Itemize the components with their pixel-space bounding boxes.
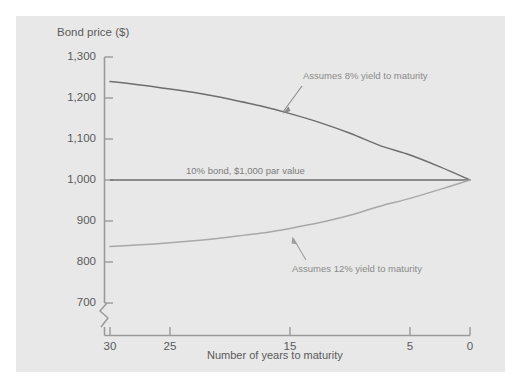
annotation-arrowhead-12pct bbox=[292, 237, 298, 245]
y-tick-label: 900 bbox=[50, 214, 96, 226]
y-axis-title: Bond price ($) bbox=[57, 26, 129, 38]
y-axis-break-icon bbox=[100, 303, 108, 327]
y-tick-label: 1,300 bbox=[50, 50, 96, 62]
x-tick-marks bbox=[110, 327, 470, 336]
y-tick-label: 1,100 bbox=[50, 132, 96, 144]
x-axis-title: Number of years to maturity bbox=[207, 349, 343, 361]
x-tick-label: 25 bbox=[157, 340, 183, 352]
y-tick-label: 800 bbox=[50, 255, 96, 267]
x-tick-label: 15 bbox=[277, 340, 303, 352]
y-tick-label: 1,000 bbox=[50, 173, 96, 185]
annotation-arrow-8pct bbox=[283, 86, 302, 112]
chart-figure: Bond price ($) Number of years to maturi… bbox=[0, 0, 524, 392]
annotation-label-12pct: Assumes 12% yield to maturity bbox=[292, 263, 422, 274]
annotation-label-par: 10% bond, $1,000 par value bbox=[186, 165, 305, 176]
y-tick-label: 700 bbox=[50, 296, 96, 308]
x-tick-label: 5 bbox=[397, 340, 423, 352]
x-tick-label: 30 bbox=[97, 340, 123, 352]
series-line-12pct bbox=[110, 180, 470, 246]
annotation-label-8pct: Assumes 8% yield to maturity bbox=[303, 70, 428, 81]
x-tick-label: 0 bbox=[457, 340, 483, 352]
y-tick-label: 1,200 bbox=[50, 91, 96, 103]
